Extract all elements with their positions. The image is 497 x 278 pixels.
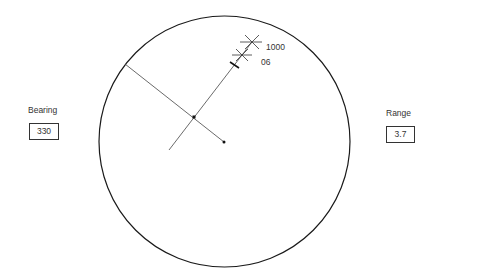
bearing-line [125,64,224,142]
bearing-value-box[interactable]: 330 [29,123,59,140]
marker-label-06: 06 [261,57,271,67]
range-value-box[interactable]: 3.7 [386,126,415,143]
intersection-marker [193,116,196,119]
star-marker-06 [232,49,252,61]
bearing-label: Bearing [28,105,57,115]
radar-scope: 1000 06 [0,0,497,278]
star-marker-1000 [240,35,262,49]
range-label: Range [386,108,411,118]
track-tick-mark [230,62,239,68]
marker-label-1000: 1000 [266,42,285,52]
center-dot [223,141,226,144]
track-line [169,42,252,150]
